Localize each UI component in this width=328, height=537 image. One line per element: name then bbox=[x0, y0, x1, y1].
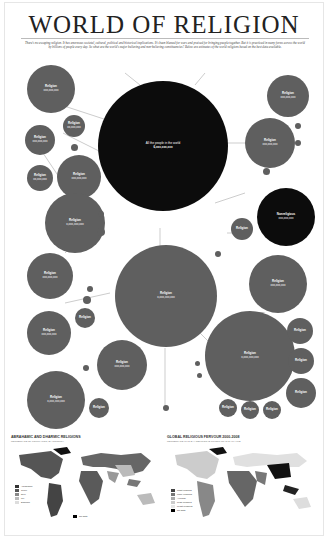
religion-circle: Religion bbox=[75, 308, 95, 328]
religion-circle: Religion xx,xxx,xxx bbox=[27, 165, 53, 191]
map-title: ABRAHAMIC AND DHARMIC RELIGIONS bbox=[11, 435, 161, 439]
religion-circle: Religion bbox=[241, 401, 259, 419]
religion-circle: Religion xxx,xxx,xxx bbox=[27, 311, 71, 355]
religion-circle: Religion xx,xxx,xxx bbox=[63, 115, 85, 137]
religion-circle: Religion bbox=[288, 348, 314, 374]
religion-circle: Religion bbox=[219, 399, 237, 417]
map-subtitle: PERCENTAGE WHO SAY RELIGION IS IMPORTANT… bbox=[167, 440, 319, 443]
small-religion-dot bbox=[83, 296, 91, 304]
small-religion-dot bbox=[215, 251, 221, 257]
religion-circle: Religion xxx,xxx,xxx bbox=[25, 125, 55, 155]
small-religion-dot bbox=[97, 228, 105, 236]
religion-circle: Religion xxx,xxx,xxx bbox=[27, 253, 73, 299]
religion-circle-black: Nonreligious xxx,xxx,xxx bbox=[257, 188, 315, 246]
small-religion-dot bbox=[163, 405, 169, 411]
small-religion-dot bbox=[87, 286, 93, 292]
world-count: 6,xxx,xxx,xxx bbox=[153, 146, 172, 150]
small-religion-dot bbox=[83, 365, 89, 371]
religion-circle: Religion xxx,xxx,xxx bbox=[249, 255, 307, 313]
map-section-right: GLOBAL RELIGIOUS FERVOUR 2000-2008 PERCE… bbox=[167, 435, 319, 533]
world-map-religious-fervour bbox=[167, 445, 317, 525]
religion-circle: Religion xxx,xxx,xxx bbox=[97, 340, 147, 390]
infographic-page: WORLD OF RELIGION There's no escaping re… bbox=[4, 2, 324, 536]
religion-circle: Religion bbox=[286, 378, 316, 408]
world-population-circle: All the people in the world 6,xxx,xxx,xx… bbox=[98, 81, 228, 211]
religion-circle: Religion bbox=[287, 318, 313, 344]
map-title: GLOBAL RELIGIOUS FERVOUR 2000-2008 bbox=[167, 435, 319, 439]
small-religion-dot bbox=[263, 168, 270, 175]
map-subtitle: PERCENTAGE OF POPULATION, BY COUNTRY bbox=[11, 440, 161, 443]
religion-circle: Religion xxx,xxx,xxx bbox=[245, 118, 295, 168]
small-religion-dot bbox=[295, 123, 301, 129]
religion-circle: Religion x,xxx,xxx,xxx bbox=[27, 371, 85, 429]
religion-circle-large: Religion x,xxx,xxx,xxx bbox=[205, 311, 295, 401]
small-religion-dot bbox=[295, 140, 301, 146]
religion-circle: Religion bbox=[263, 401, 281, 419]
map-legend: Abrahamic 100% 50% 0% Dharmic bbox=[15, 485, 32, 505]
map-legend: Most religious More religious Average Le… bbox=[171, 489, 192, 513]
small-religion-dot bbox=[195, 361, 200, 366]
small-religion-dot bbox=[71, 144, 78, 151]
small-religion-dot bbox=[197, 373, 202, 378]
small-religion-dot bbox=[98, 211, 104, 217]
religion-circle: Religion bbox=[89, 398, 109, 418]
world-map-abrahamic-dharmic bbox=[11, 445, 161, 525]
religion-circle: Religion xxx,xxx,xxx bbox=[27, 65, 75, 113]
map-section-left: ABRAHAMIC AND DHARMIC RELIGIONS PERCENTA… bbox=[11, 435, 161, 533]
religion-circle: Religion bbox=[231, 218, 253, 240]
map-legend-nodata: No data bbox=[73, 515, 87, 519]
religion-circle-center: Religion x,xxx,xxx,xxx bbox=[115, 245, 217, 347]
religion-circle-large: Religion x,xxx,xxx,xxx bbox=[45, 193, 105, 253]
religion-circle: Religion xxx,xxx,xxx bbox=[267, 75, 309, 117]
